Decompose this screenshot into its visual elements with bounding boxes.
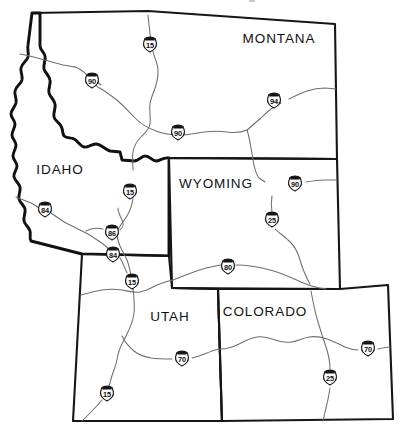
- state-outlines: [11, 11, 393, 421]
- map-canvas: MONTANA IDAHO WYOMING UTAH COLORADO 1590…: [0, 0, 410, 437]
- shield-route-number: 80: [224, 263, 232, 272]
- shield-route-number: 94: [270, 97, 279, 106]
- shield-route-number: 25: [268, 216, 276, 225]
- shield-route-number: 15: [126, 188, 134, 197]
- shield-route-number: 90: [88, 77, 96, 86]
- border-wyoming-utah: [172, 288, 340, 289]
- state-label-wyoming: WYOMING: [179, 176, 253, 191]
- state-label-utah: UTAH: [150, 309, 189, 324]
- shield-route-number: 90: [174, 129, 182, 138]
- shield-route-number: 70: [178, 355, 186, 364]
- interstate-map: MONTANA IDAHO WYOMING UTAH COLORADO 1590…: [0, 0, 410, 437]
- shield-route-number: 84: [109, 251, 118, 260]
- shield-route-number: 86: [108, 229, 116, 238]
- shield-route-number: 25: [326, 374, 334, 383]
- state-label-idaho: IDAHO: [36, 162, 83, 177]
- shield-route-number: 90: [291, 180, 299, 189]
- shield-route-number: 15: [128, 278, 136, 287]
- shield-route-number: 15: [146, 41, 154, 50]
- shield-route-number: 84: [41, 206, 50, 215]
- state-label-colorado: COLORADO: [223, 304, 307, 319]
- state-label-montana: MONTANA: [243, 31, 316, 46]
- shield-route-number: 15: [103, 390, 111, 399]
- top-edge-artifact: [249, 0, 255, 2]
- shield-route-number: 70: [364, 345, 372, 354]
